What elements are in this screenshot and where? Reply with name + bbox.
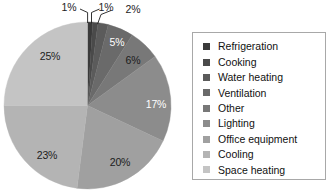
legend-item-label: Cooking: [218, 57, 257, 68]
callout-label-cooking: 1%: [98, 1, 113, 13]
pie-svg: [0, 0, 186, 195]
legend-item-label: Office equipment: [218, 134, 297, 145]
legend-swatch-icon: [203, 120, 210, 127]
pie-slices: [4, 22, 171, 189]
legend-swatch-icon: [203, 136, 210, 143]
legend-item-label: Refrigeration: [218, 41, 278, 52]
legend-swatch-icon: [203, 151, 210, 158]
legend-item[interactable]: Office equipment: [203, 131, 325, 146]
legend-item[interactable]: Ventilation: [203, 85, 325, 100]
pie-slice: [4, 22, 88, 106]
legend-item[interactable]: Other: [203, 101, 325, 116]
legend-item-label: Ventilation: [218, 88, 266, 99]
legend-item[interactable]: Refrigeration: [203, 39, 325, 54]
legend-item-label: Other: [218, 103, 244, 114]
legend-item-label: Water heating: [218, 72, 283, 83]
legend-item[interactable]: Lighting: [203, 116, 325, 131]
legend-item-label: Lighting: [218, 118, 255, 129]
chart-legend: RefrigerationCookingWater heatingVentila…: [192, 32, 326, 180]
pie-slice: [4, 106, 88, 189]
legend-item[interactable]: Space heating: [203, 162, 325, 177]
callout-label-water-heating: 2%: [125, 3, 140, 15]
legend-swatch-icon: [203, 105, 210, 112]
legend-item[interactable]: Cooking: [203, 54, 325, 69]
legend-swatch-icon: [203, 166, 210, 173]
legend-item-label: Cooling: [218, 149, 254, 160]
legend-swatch-icon: [203, 59, 210, 66]
legend-swatch-icon: [203, 43, 210, 50]
legend-item[interactable]: Cooling: [203, 147, 325, 162]
legend-item-label: Space heating: [218, 165, 285, 176]
legend-swatch-icon: [203, 74, 210, 81]
pie-plot-area: 5% 6% 17% 20% 23% 25% 1% 1% 2%: [0, 0, 186, 195]
legend-swatch-icon: [203, 89, 210, 96]
legend-item[interactable]: Water heating: [203, 70, 325, 85]
callout-label-refrigeration: 1%: [61, 1, 76, 13]
